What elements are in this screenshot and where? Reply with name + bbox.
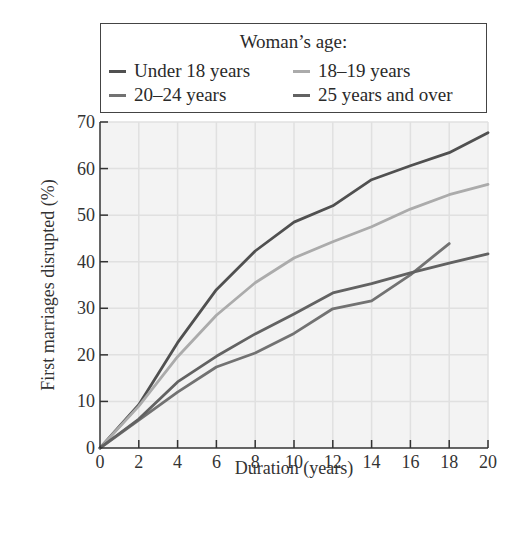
line-chart: 02468101214161820 010203040506070 Durati… — [0, 0, 528, 544]
y-tick-label: 40 — [77, 252, 95, 272]
y-tick-label: 10 — [77, 391, 95, 411]
x-tick-label: 20 — [479, 452, 497, 472]
y-tick-label: 0 — [86, 438, 95, 458]
x-tick-label: 0 — [96, 452, 105, 472]
x-tick-label: 4 — [173, 452, 182, 472]
y-tick-label: 20 — [77, 345, 95, 365]
x-tick-label: 14 — [363, 452, 381, 472]
x-tick-label: 18 — [440, 452, 458, 472]
x-tick-label: 16 — [401, 452, 419, 472]
x-tick-label: 6 — [212, 452, 221, 472]
x-tick-label: 2 — [134, 452, 143, 472]
y-tick-label: 70 — [77, 112, 95, 132]
y-tick-label: 60 — [77, 159, 95, 179]
x-axis-title: Duration (years) — [235, 458, 353, 479]
y-tick-label: 50 — [77, 205, 95, 225]
y-axis-title: First marriages disrupted (%) — [38, 179, 59, 390]
y-tick-label: 30 — [77, 298, 95, 318]
